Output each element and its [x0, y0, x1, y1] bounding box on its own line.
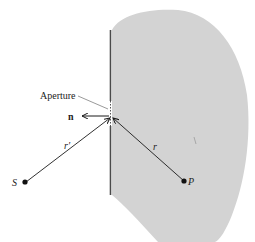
point-label: P [187, 176, 194, 187]
aperture-label: Aperture [40, 90, 76, 101]
observation-region [112, 10, 249, 242]
source-label: S [12, 177, 17, 188]
observation-point [181, 178, 186, 183]
r-prime-label: r′ [64, 140, 71, 151]
r-label: r [153, 141, 157, 152]
aperture-leader-line [78, 96, 108, 109]
source-point [22, 179, 27, 184]
diffraction-diagram: Aperture n r′ r S P [0, 0, 255, 242]
normal-vector-label: n [68, 111, 74, 122]
